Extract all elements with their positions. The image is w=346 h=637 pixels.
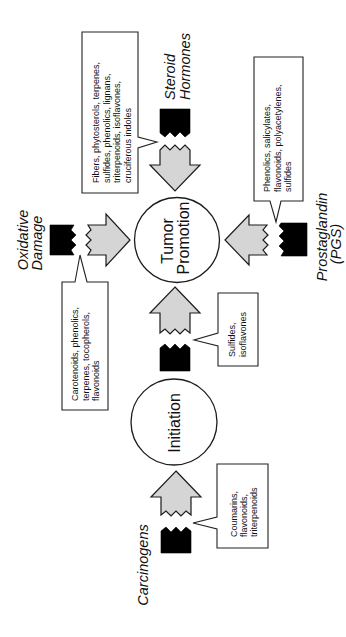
blocker-block-icon xyxy=(161,527,191,553)
pathway-initiation-to-promotion xyxy=(150,287,200,371)
factor-prostaglandin: Prostaglandin (PGS) xyxy=(225,193,344,282)
callout-line: Fibers, phytosterols, terpenes, xyxy=(91,62,101,183)
factor-label-line: Steroid xyxy=(162,53,178,100)
stage-label-line: Promotion xyxy=(175,202,192,275)
callout-line: triterpenoids, isoflavones, xyxy=(112,81,122,183)
callout-oxidative-inhibitors: Carotenoids, phenolics, terpenes, tocoph… xyxy=(62,255,108,410)
arrow-right-icon xyxy=(86,214,130,266)
callout-promotion-pathway-inhibitors: Sulfides, isoflavones xyxy=(194,293,258,366)
callout-line: cruciferous indoles xyxy=(123,107,133,183)
blocker-block-icon xyxy=(279,223,307,256)
callout-carcinogen-inhibitors: Coumarins, flavonoids, triterpenoids xyxy=(193,464,268,548)
callout-line: sulfides xyxy=(283,161,293,192)
callout-line: Phenolics, salicylates, xyxy=(262,104,272,192)
callout-line: triterpenoids xyxy=(249,487,259,537)
callout-line: flavonoids xyxy=(91,360,101,401)
callout-prostaglandin-inhibitors: Phenolics, salicylates, flavonoids, poly… xyxy=(254,57,303,222)
blocker-block-icon xyxy=(160,109,190,137)
stage-tumor-promotion: Tumor Promotion xyxy=(135,198,220,283)
callout-line: flavonoids, xyxy=(239,494,249,537)
blocker-block-icon xyxy=(50,225,76,255)
arrow-up-icon xyxy=(151,471,201,516)
arrow-left-icon xyxy=(225,215,268,265)
callout-line: Carotenoids, phenolics, xyxy=(70,307,80,401)
factor-label-line: Hormones xyxy=(177,33,193,100)
callout-line: flavonoids, polyacetylenes, xyxy=(273,84,283,192)
callout-steroid-inhibitors: Fibers, phytosterols, terpenes, sulfides… xyxy=(82,32,157,193)
factor-carcinogens: Carcinogens xyxy=(135,471,201,606)
factor-label-line: (PGS) xyxy=(328,224,344,264)
factor-label: Carcinogens xyxy=(135,524,151,605)
callout-line: isoflavones xyxy=(238,311,248,357)
factor-oxidative-damage: Oxidative Damage xyxy=(15,210,130,271)
blocker-block-icon xyxy=(160,344,190,371)
callout-line: sulfides, phenolics, lignans, xyxy=(102,73,112,183)
arrow-down-icon xyxy=(150,145,200,191)
stage-label-line: Tumor xyxy=(159,218,176,264)
factor-steroid-hormones: Steroid Hormones xyxy=(150,33,200,191)
cancer-stage-diagram: Fibers, phytosterols, terpenes, sulfides… xyxy=(0,0,346,637)
callout-box xyxy=(194,293,258,366)
factor-label-line: Damage xyxy=(29,216,45,271)
callout-line: terpenes, tocopherols, xyxy=(81,312,91,401)
arrow-up-icon xyxy=(150,287,200,334)
stage-initiation: Initiation xyxy=(131,379,217,465)
callout-line: Sulfides, xyxy=(227,322,237,357)
callout-line: Coumarins, xyxy=(229,491,239,537)
stage-label: Initiation xyxy=(166,393,183,453)
